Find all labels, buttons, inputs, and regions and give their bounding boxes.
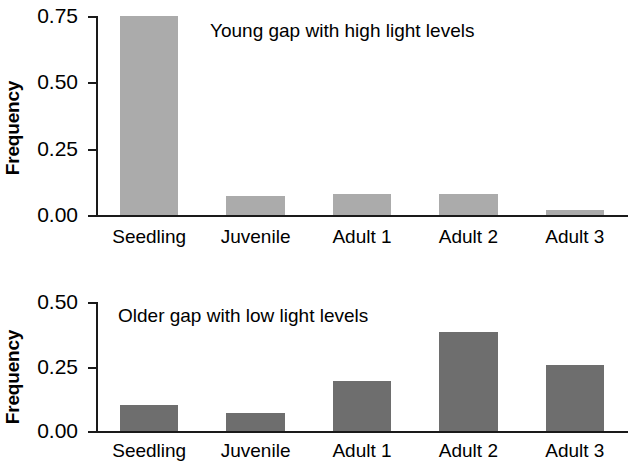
y-tick-label-bottom-1: 0.25 xyxy=(37,355,78,379)
bar-bottom-3 xyxy=(439,332,498,431)
x-tick-label-top-0: Seedling xyxy=(112,226,186,248)
bar-bottom-0 xyxy=(120,405,179,431)
bar-top-4 xyxy=(546,210,605,215)
y-tick-top-2: 0.50 xyxy=(88,82,96,84)
x-axis-line-bottom xyxy=(96,431,628,433)
x-tick-label-bottom-0: Seedling xyxy=(112,440,186,462)
y-tick-top-0: 0.00 xyxy=(88,215,96,217)
x-axis-line-top xyxy=(96,215,628,217)
x-tick-label-top-4: Adult 3 xyxy=(545,226,604,248)
bar-top-1 xyxy=(226,196,285,215)
y-axis-title-top-text: Frequency xyxy=(2,81,24,175)
y-tick-label-top-0: 0.00 xyxy=(37,203,78,227)
chart-title-top: Young gap with high light levels xyxy=(210,20,474,42)
y-tick-label-top-1: 0.25 xyxy=(37,137,78,161)
y-tick-label-top-3: 0.75 xyxy=(37,4,78,28)
y-tick-top-1: 0.25 xyxy=(88,149,96,151)
y-tick-bottom-1: 0.25 xyxy=(88,367,96,369)
chart-panel-young-gap: Frequency 0.00 0.25 0.50 0.75 Young gap … xyxy=(0,0,635,262)
x-axis-labels-bottom: SeedlingJuvenileAdult 1Adult 2Adult 3 xyxy=(96,440,628,466)
bar-top-0 xyxy=(120,16,179,215)
chart-panel-older-gap: Frequency 0.00 0.25 0.50 Older gap with … xyxy=(0,262,635,470)
y-axis-title-bottom: Frequency xyxy=(0,318,26,436)
x-tick-label-bottom-3: Adult 2 xyxy=(439,440,498,462)
y-tick-top-3: 0.75 xyxy=(88,16,96,18)
bar-bottom-4 xyxy=(546,365,605,431)
y-tick-label-bottom-0: 0.00 xyxy=(37,419,78,443)
chart-title-bottom: Older gap with low light levels xyxy=(118,305,368,327)
x-tick-label-top-1: Juvenile xyxy=(221,226,291,248)
x-axis-labels-top: SeedlingJuvenileAdult 1Adult 2Adult 3 xyxy=(96,226,628,252)
y-axis-line-top xyxy=(96,16,98,215)
x-tick-label-bottom-2: Adult 1 xyxy=(332,440,391,462)
bar-top-2 xyxy=(333,194,392,215)
bar-top-3 xyxy=(439,194,498,215)
y-tick-bottom-2: 0.50 xyxy=(88,302,96,304)
bar-bottom-1 xyxy=(226,413,285,431)
plot-area-bottom: 0.00 0.25 0.50 Older gap with low light … xyxy=(96,302,628,431)
y-axis-line-bottom xyxy=(96,302,98,431)
plot-area-top: 0.00 0.25 0.50 0.75 Young gap with high … xyxy=(96,16,628,215)
x-tick-label-top-2: Adult 1 xyxy=(332,226,391,248)
x-tick-label-bottom-4: Adult 3 xyxy=(545,440,604,462)
y-axis-title-top: Frequency xyxy=(0,48,26,208)
y-tick-bottom-0: 0.00 xyxy=(88,431,96,433)
y-tick-label-top-2: 0.50 xyxy=(37,70,78,94)
y-axis-title-bottom-text: Frequency xyxy=(2,330,24,424)
x-tick-label-top-3: Adult 2 xyxy=(439,226,498,248)
bar-bottom-2 xyxy=(333,381,392,431)
figure: Frequency 0.00 0.25 0.50 0.75 Young gap … xyxy=(0,0,635,470)
x-tick-label-bottom-1: Juvenile xyxy=(221,440,291,462)
y-tick-label-bottom-2: 0.50 xyxy=(37,290,78,314)
